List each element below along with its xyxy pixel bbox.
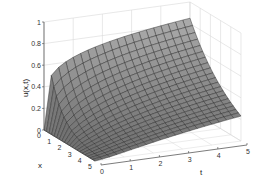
t-tick-label: 2 [158, 160, 162, 167]
t-tick-label: 5 [246, 148, 250, 155]
z-tick-label: 0.6 [31, 62, 41, 69]
x-tick-label: 3 [68, 151, 72, 158]
z-axis-label: u(x,t) [21, 79, 30, 98]
x-tick-label: 5 [88, 163, 92, 170]
z-tick-label: 0.2 [31, 105, 41, 112]
t-tick-label: 0 [100, 168, 104, 175]
x-tick-label: 1 [47, 138, 51, 145]
z-tick-label: 0.4 [31, 83, 41, 90]
t-tick-label: 3 [188, 156, 192, 163]
x-axis-label: x [38, 161, 42, 170]
x-tick-label: 0 [37, 132, 41, 139]
t-tick-label: 4 [217, 152, 221, 159]
t-tick-label: 1 [129, 164, 133, 171]
z-tick-label: 0.8 [31, 40, 41, 47]
z-tick-label: 1 [37, 19, 41, 26]
x-tick-label: 2 [57, 144, 61, 151]
t-axis-label: t [200, 168, 203, 177]
surface-plot: 00.20.40.60.81012345012345 u(x,t) x t [0, 0, 268, 187]
x-tick-label: 4 [78, 157, 82, 164]
